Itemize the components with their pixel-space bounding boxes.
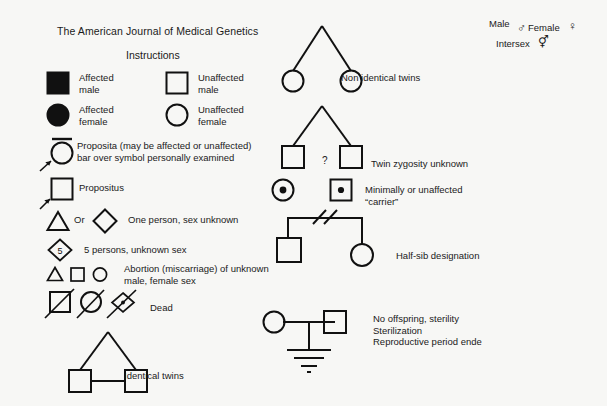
affected-female-label: Affected female [79, 104, 114, 127]
identical-twins-label: Identical twins [124, 370, 184, 382]
or-label: Or [74, 214, 85, 226]
unaffected-male-label: Unaffected male [198, 72, 244, 95]
unaffected-female-label: Unaffected female [198, 104, 244, 127]
intersex-label: Intersex [496, 38, 530, 50]
proposita-label: Proposita (may be affected or unaffected… [77, 140, 251, 163]
one-person-label: One person, sex unknown [128, 214, 238, 226]
male-label: Male [489, 18, 510, 30]
identical-twins-symbol [55, 330, 165, 392]
five-persons-count: 5 [57, 246, 62, 256]
no-offspring-symbol [262, 308, 372, 374]
carrier-female-symbol [271, 178, 295, 202]
propositus-symbol [40, 174, 84, 210]
five-persons-diamond-symbol: 5 [47, 238, 73, 262]
carrier-male-symbol [329, 178, 353, 202]
diamond-unknown-sex-symbol [92, 208, 118, 234]
half-sib-label: Half-sib designation [396, 250, 479, 262]
page-title: The American Journal of Medical Genetics [57, 26, 258, 38]
unaffected-female-symbol [165, 103, 189, 127]
unaffected-male-symbol [165, 71, 189, 95]
propositus-label: Propositus [79, 182, 124, 194]
affected-female-symbol [46, 103, 70, 127]
non-identical-twins-label: Non identical twins [341, 72, 420, 84]
abortion-symbols [46, 265, 122, 283]
instructions-subtitle: Instructions [126, 50, 180, 62]
triangle-unknown-sex-symbol [46, 210, 70, 232]
dead-label: Dead [150, 302, 173, 314]
affected-male-symbol [46, 71, 70, 95]
intersex-icon: ⚥ [538, 35, 549, 49]
half-sib-symbol [271, 210, 386, 282]
twin-zygosity-unknown-label: Twin zygosity unknown [371, 158, 468, 170]
no-offspring-label: No offspring, sterility Sterilization Re… [373, 313, 482, 348]
zygosity-question-mark: ? [322, 155, 328, 167]
dead-symbols [44, 288, 140, 322]
male-icon: ♂ [517, 21, 526, 35]
female-icon: ♀ [568, 19, 577, 33]
affected-male-label: Affected male [79, 72, 114, 95]
carrier-label: Minimally or unaffected “carrier” [365, 184, 463, 207]
pedigree-legend-figure: The American Journal of Medical Genetics… [0, 0, 607, 406]
abortion-label: Abortion (miscarriage) of unknown male, … [124, 263, 269, 286]
five-persons-label: 5 persons, unknown sex [84, 244, 186, 256]
female-label: Female [528, 22, 560, 34]
